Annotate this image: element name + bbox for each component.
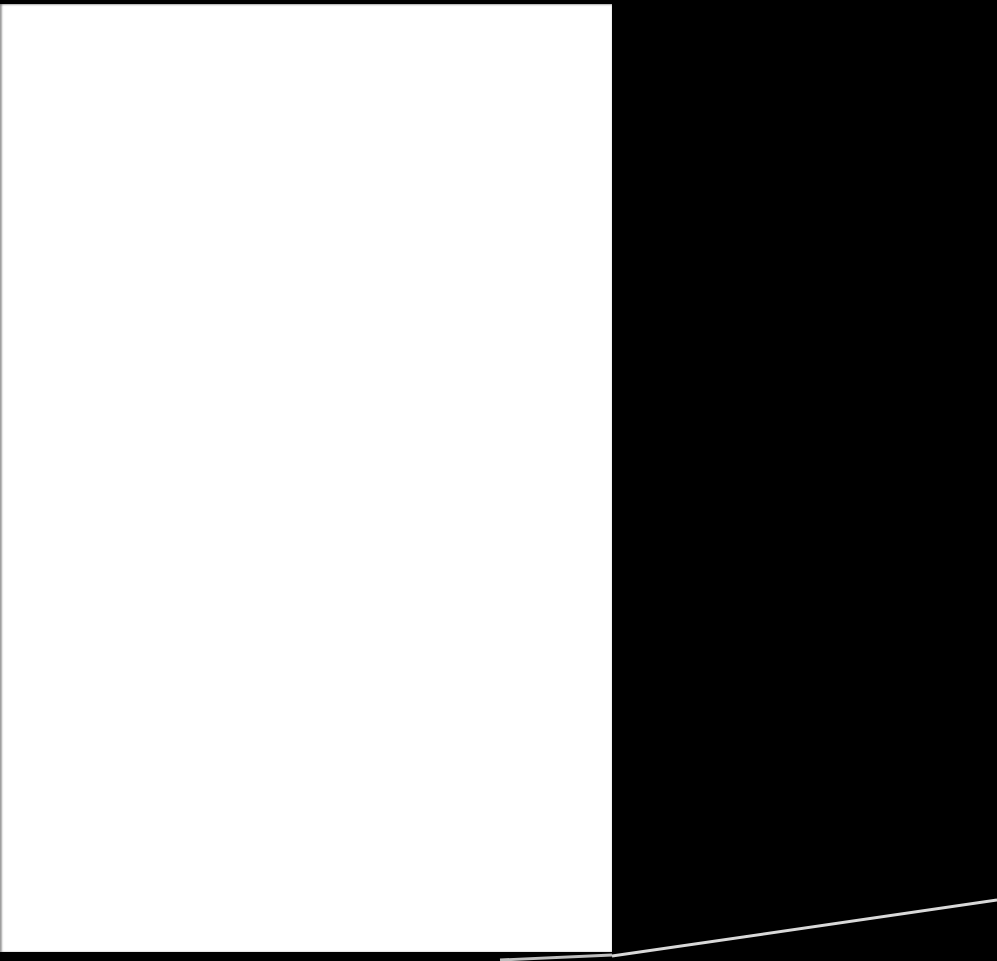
blank-page bbox=[0, 4, 612, 952]
page-content bbox=[40, 44, 572, 912]
scan-background bbox=[0, 0, 997, 961]
